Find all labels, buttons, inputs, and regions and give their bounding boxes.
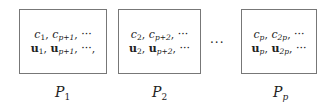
trailing-ellipsis: , ···: [289, 42, 306, 55]
label-letter: P: [152, 84, 161, 100]
partition-box-2: c2, cp+2, ··· u2, up+2, ···: [118, 9, 201, 74]
subscript: 2p: [278, 33, 288, 42]
partition-label-p: Pp: [273, 84, 288, 100]
subscript: p+1: [58, 33, 74, 42]
partition-label-2: P2: [152, 84, 167, 100]
label-subscript: p: [282, 92, 288, 102]
trailing-ellipsis: , ···: [74, 28, 91, 41]
trailing-ellipsis: , ···: [287, 28, 304, 41]
ellipsis-between-partitions: ···: [210, 36, 224, 50]
u-vector-symbol: u: [129, 42, 137, 55]
partition-box-p: cp, c2p, ··· up, u2p, ···: [241, 9, 317, 74]
subscript: p+2: [155, 33, 171, 42]
label-subscript: 2: [161, 92, 167, 102]
label-subscript: 1: [64, 92, 70, 102]
partition-1-c-line: c1, cp+1, ···: [34, 28, 91, 42]
u-vector-symbol: u: [31, 42, 39, 55]
partition-label-1: P1: [55, 84, 70, 100]
partition-2-u-line: u2, up+2, ···: [129, 42, 190, 56]
comma: ,: [142, 28, 149, 41]
partition-p-u-line: up, u2p, ···: [252, 42, 307, 56]
label-letter: P: [273, 84, 282, 100]
label-letter: P: [55, 84, 64, 100]
subscript: p+1: [58, 47, 74, 56]
partition-2-c-line: c2, cp+2, ···: [131, 28, 188, 42]
partition-box-1: c1, cp+1, ··· u1, up+1, ···,: [19, 9, 107, 74]
partition-1-u-line: u1, up+1, ···,: [31, 42, 96, 56]
partition-p-c-line: cp, c2p, ···: [253, 28, 304, 42]
subscript: p+2: [157, 47, 173, 56]
trailing-ellipsis: , ···: [171, 28, 188, 41]
subscript: 2p: [279, 47, 289, 56]
comma: ,: [142, 42, 149, 55]
trailing-ellipsis: , ···: [173, 42, 190, 55]
u-vector-symbol: u: [252, 42, 260, 55]
u-vector-symbol: u: [149, 42, 157, 55]
trailing-ellipsis: , ···,: [74, 42, 95, 55]
